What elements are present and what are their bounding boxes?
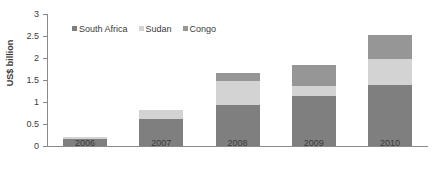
bar-segment-sudan[interactable] [216, 81, 260, 105]
y-tick-label: 3 [5, 10, 39, 19]
legend-label: Sudan [146, 24, 172, 34]
bar-segment-south-africa[interactable] [368, 85, 412, 146]
legend-label: South Africa [79, 24, 128, 34]
legend-label: Congo [190, 24, 217, 34]
bar-group[interactable] [368, 35, 412, 146]
y-tick-label: 2.5 [5, 32, 39, 41]
x-tick-label: 2010 [355, 138, 425, 148]
bar-group[interactable] [216, 73, 260, 146]
bar-segment-congo[interactable] [216, 73, 260, 80]
x-tick-label: 2008 [203, 138, 273, 148]
legend-swatch-icon [72, 26, 77, 31]
legend-item[interactable]: Congo [183, 24, 217, 34]
x-tick-label: 2007 [126, 138, 196, 148]
legend-swatch-icon [183, 26, 188, 31]
legend-item[interactable]: South Africa [72, 24, 128, 34]
bar-segment-congo[interactable] [292, 65, 336, 86]
y-tick-mark [43, 146, 47, 147]
legend-item[interactable]: Sudan [139, 24, 172, 34]
bar-segment-congo[interactable] [368, 35, 412, 59]
x-tick-label: 2009 [279, 138, 349, 148]
y-tick-label: 2 [5, 54, 39, 63]
y-tick-label: 1 [5, 98, 39, 107]
bar-group[interactable] [292, 65, 336, 146]
y-tick-label: 0 [5, 142, 39, 151]
bar-segment-sudan[interactable] [139, 110, 183, 119]
y-tick-label: 0.5 [5, 120, 39, 129]
y-tick-label: 1.5 [5, 76, 39, 85]
bar-segment-sudan[interactable] [368, 59, 412, 85]
legend-swatch-icon [139, 26, 144, 31]
x-tick-label: 2006 [50, 138, 120, 148]
chart-legend: South AfricaSudanCongo [72, 24, 216, 34]
bar-segment-sudan[interactable] [292, 86, 336, 96]
stacked-bar-chart: US$ billion 00.511.522.53 20062007200820… [0, 0, 436, 178]
